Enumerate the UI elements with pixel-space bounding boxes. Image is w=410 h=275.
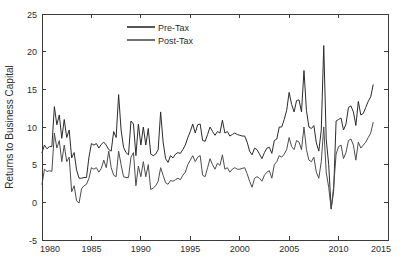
legend-label-post-tax: Post-Tax: [158, 36, 194, 46]
x-tick-label: 2010: [329, 244, 349, 254]
x-tick-label: 2000: [230, 244, 250, 254]
chart-figure: 19801985199019952000200520102015 -505101…: [0, 0, 410, 275]
y-tick-label: 10: [27, 123, 37, 133]
y-tick-label: 0: [32, 198, 37, 208]
x-axis-tick-labels: 19801985199019952000200520102015: [40, 244, 391, 254]
y-axis-tick-labels: -50510152025: [27, 10, 37, 246]
returns-to-business-capital-line-chart: 19801985199019952000200520102015 -505101…: [0, 0, 410, 275]
x-tick-label: 2015: [371, 244, 391, 254]
legend-label-pre-tax: Pre-Tax: [158, 23, 190, 33]
x-tick-label: 1980: [40, 244, 60, 254]
y-tick-label: 15: [27, 85, 37, 95]
y-tick-label: 25: [27, 10, 37, 20]
y-tick-label: -5: [29, 236, 37, 246]
x-tick-label: 1990: [131, 244, 151, 254]
x-tick-label: 1995: [180, 244, 200, 254]
x-tick-label: 2005: [279, 244, 299, 254]
y-tick-label: 20: [27, 47, 37, 57]
y-axis-title: Returns to Business Capital: [4, 65, 15, 188]
y-tick-label: 5: [32, 160, 37, 170]
x-tick-label: 1985: [81, 244, 101, 254]
